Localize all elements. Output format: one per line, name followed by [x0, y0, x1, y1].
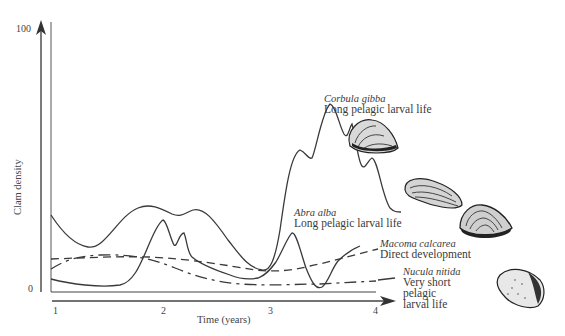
species-desc: Long pelagic larval life: [324, 104, 432, 115]
corbula-shell-icon: [349, 120, 398, 153]
macoma-shell-icon: [460, 205, 512, 238]
label-abra-alba: Abra alba Long pelagic larval life: [294, 207, 402, 229]
label-corbula-gibba: Corbula gibba Long pelagic larval life: [324, 93, 432, 115]
y-tick-100: 100: [16, 23, 31, 34]
x-tick-3: 3: [268, 305, 273, 316]
x-tick-4: 4: [373, 305, 378, 316]
nucula-shell-icon: [497, 269, 544, 307]
series-corbula-gibba: [51, 104, 401, 270]
chart-canvas: [0, 0, 565, 336]
label-macoma-calcarea: Macoma calcarea Direct development: [380, 238, 471, 260]
species-desc-3: larval life: [403, 299, 460, 310]
label-nucula-nitida: Nucula nitida Very short pelagic larval …: [403, 266, 460, 310]
x-axis-label: Time (years): [197, 314, 251, 325]
abra-shell-icon: [405, 179, 462, 208]
nucula-leader: [378, 278, 395, 280]
species-desc: Direct development: [380, 249, 471, 260]
species-desc: Long pelagic larval life: [294, 218, 402, 229]
x-tick-2: 2: [161, 305, 166, 316]
series-abra-alba: [51, 220, 360, 288]
x-tick-1: 1: [53, 305, 58, 316]
series-macoma-calcarea: [51, 249, 378, 271]
y-axis-label: Clam density: [12, 159, 23, 215]
y-tick-0: 0: [28, 283, 33, 294]
